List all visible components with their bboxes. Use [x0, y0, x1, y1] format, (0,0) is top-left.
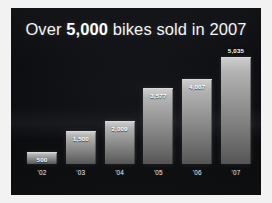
bar-value-04: 2,009 — [111, 125, 127, 132]
bar-slot-06: 4,007 — [182, 48, 212, 164]
bar-slot-04: 2,009 — [105, 48, 135, 164]
bar-value-03: 1,500 — [73, 135, 89, 142]
chart-plot-area: 500 1,500 2,009 3,577 — [27, 48, 251, 187]
bar-value-05: 3,577 — [150, 92, 166, 99]
x-tick-04: '04 — [105, 169, 135, 176]
bar-05[interactable]: 3,577 — [143, 88, 173, 164]
slide-frame: Over 5,000 bikes sold in 2007 500 1,500 … — [0, 0, 272, 203]
title-suffix: bikes sold in 2007 — [108, 20, 247, 38]
slide-title: Over 5,000 bikes sold in 2007 — [11, 20, 261, 39]
bar-value-06: 4,007 — [189, 83, 205, 90]
bar-group: 500 1,500 2,009 3,577 — [27, 48, 251, 164]
title-emphasis: 5,000 — [66, 20, 108, 38]
bar-slot-03: 1,500 — [66, 48, 96, 164]
x-tick-02: '02 — [27, 169, 57, 176]
title-prefix: Over — [25, 20, 66, 38]
bar-04[interactable]: 2,009 — [105, 121, 135, 164]
x-tick-06: '06 — [182, 169, 212, 176]
bar-slot-07: 5,035 — [221, 48, 251, 164]
x-tick-07: '07 — [221, 169, 251, 176]
bar-value-02: 500 — [37, 156, 48, 163]
bar-02[interactable]: 500 — [27, 152, 57, 164]
bar-slot-05: 3,577 — [143, 48, 173, 164]
bar-slot-02: 500 — [27, 48, 57, 164]
x-axis-labels: '02 '03 '04 '05 '06 '07 — [27, 164, 251, 187]
x-tick-05: '05 — [143, 169, 173, 176]
x-tick-03: '03 — [66, 169, 96, 176]
presentation-slide: Over 5,000 bikes sold in 2007 500 1,500 … — [11, 8, 261, 195]
bar-value-07: 5,035 — [228, 47, 244, 54]
bar-03[interactable]: 1,500 — [66, 131, 96, 164]
bar-06[interactable]: 4,007 — [182, 79, 212, 165]
bar-07[interactable]: 5,035 — [221, 57, 251, 164]
